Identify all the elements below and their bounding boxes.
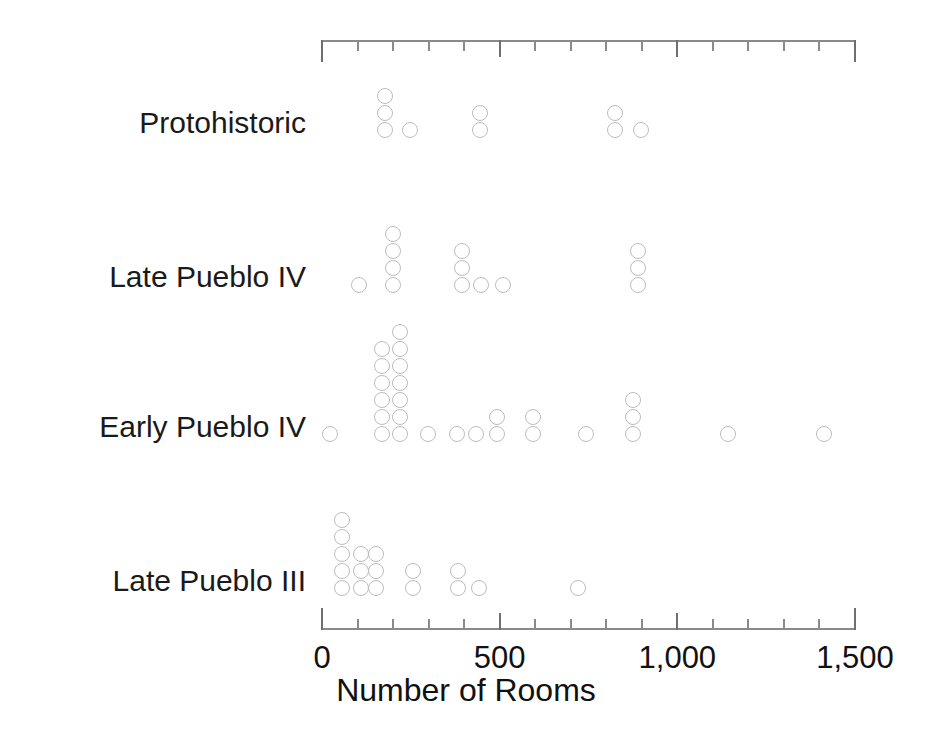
data-point-dot [468, 426, 484, 442]
data-point-dot [353, 546, 369, 562]
data-point-dot [377, 105, 393, 121]
data-point-dot [633, 122, 649, 138]
data-point-dot [495, 277, 511, 293]
data-point-dot [377, 88, 393, 104]
data-point-dot [353, 580, 369, 596]
data-point-dot [334, 546, 350, 562]
chart-figure: 05001,0001,500 Number of Rooms Protohist… [0, 0, 932, 746]
data-point-dot [392, 358, 408, 374]
data-point-dot [578, 426, 594, 442]
data-point-dot [454, 260, 470, 276]
data-point-dot [570, 580, 586, 596]
data-point-dot [402, 122, 418, 138]
data-point-dot [630, 243, 646, 259]
data-point-dot [630, 277, 646, 293]
data-point-dot [625, 409, 641, 425]
data-point-dot [374, 409, 390, 425]
data-point-dot [392, 375, 408, 391]
data-point-dot [472, 122, 488, 138]
data-point-dot [525, 426, 541, 442]
data-point-dot [385, 277, 401, 293]
data-point-dot [385, 243, 401, 259]
data-point-dot [368, 546, 384, 562]
data-point-dot [374, 341, 390, 357]
data-point-dot [720, 426, 736, 442]
data-point-dot [489, 409, 505, 425]
data-point-dot [385, 260, 401, 276]
data-point-dot [334, 563, 350, 579]
data-point-dot [607, 105, 623, 121]
data-point-dot [450, 563, 466, 579]
data-point-dot [334, 512, 350, 528]
data-point-dot [353, 563, 369, 579]
data-point-dot [392, 341, 408, 357]
data-point-dot [816, 426, 832, 442]
data-point-dot [392, 324, 408, 340]
data-point-dot [630, 260, 646, 276]
data-point-dot [454, 243, 470, 259]
data-point-dot [489, 426, 505, 442]
data-point-dot [405, 580, 421, 596]
data-point-dot [368, 580, 384, 596]
data-point-dot [374, 426, 390, 442]
data-point-dot [374, 375, 390, 391]
data-point-dot [334, 580, 350, 596]
data-point-dot [392, 392, 408, 408]
data-point-dot [525, 409, 541, 425]
data-point-dot [454, 277, 470, 293]
data-point-dot [334, 529, 350, 545]
data-point-dot [374, 392, 390, 408]
dot-plot-area [0, 0, 932, 746]
data-point-dot [473, 277, 489, 293]
data-point-dot [351, 277, 367, 293]
data-point-dot [625, 426, 641, 442]
data-point-dot [625, 392, 641, 408]
data-point-dot [368, 563, 384, 579]
data-point-dot [420, 426, 436, 442]
data-point-dot [374, 358, 390, 374]
data-point-dot [450, 580, 466, 596]
data-point-dot [471, 580, 487, 596]
data-point-dot [392, 426, 408, 442]
data-point-dot [449, 426, 465, 442]
data-point-dot [385, 226, 401, 242]
data-point-dot [405, 563, 421, 579]
data-point-dot [322, 426, 338, 442]
data-point-dot [607, 122, 623, 138]
data-point-dot [472, 105, 488, 121]
data-point-dot [392, 409, 408, 425]
data-point-dot [377, 122, 393, 138]
